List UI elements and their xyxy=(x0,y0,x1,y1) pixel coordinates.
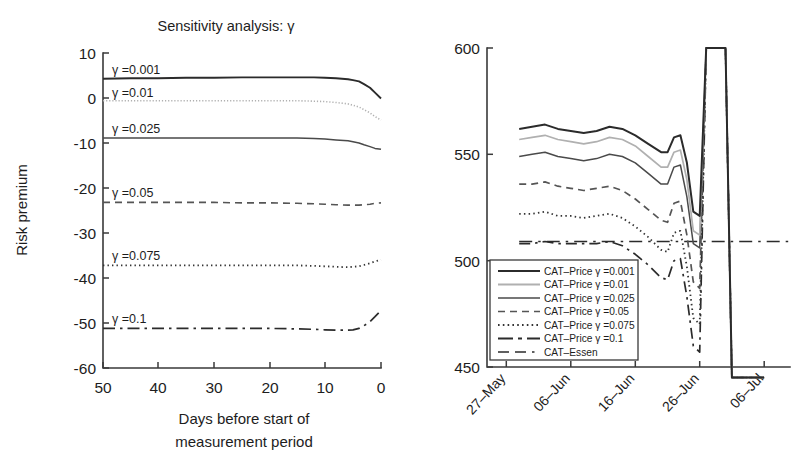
right-ytick-600: 600 xyxy=(454,40,480,57)
left-y-tick-labels: 10 0 -10 -20 -30 -40 -50 -60 xyxy=(74,45,97,377)
left-ytick-2: -10 xyxy=(74,135,97,152)
right-xtick-26-jun: 26–Jun xyxy=(659,370,702,415)
left-xtick-5: 0 xyxy=(377,379,386,396)
left-x-axis-label-line1: Days before start of xyxy=(179,410,311,427)
annot-gamma-0.05: γ =0.05 xyxy=(112,186,153,200)
left-ytick-3: -20 xyxy=(74,180,97,197)
left-xtick-0: 50 xyxy=(94,379,112,396)
right-x-tick-labels: 27–May 06–Jun 16–Jun 26–Jun 06–Jul xyxy=(463,370,767,417)
left-curve-annotations: γ =0.001 γ =0.01 γ =0.025 γ =0.05 γ =0.0… xyxy=(112,63,160,326)
left-ytick-6: -50 xyxy=(74,315,97,332)
left-x-ticks xyxy=(103,362,381,368)
figure-root: Sensitivity analysis: γ Risk premium 10 … xyxy=(0,0,812,470)
left-curve-gamma-0.05 xyxy=(103,202,381,205)
right-xtick-27-may: 27–May xyxy=(463,370,509,417)
left-curves xyxy=(103,77,381,330)
legend-label-gamma-0.1: CAT–Price γ =0.1 xyxy=(544,333,624,344)
right-ytick-550: 550 xyxy=(454,146,480,163)
legend-label-cat-essen: CAT–Essen xyxy=(544,347,598,358)
right-plot-panel: 600 550 500 450 27–May 06–Jun 16–Jun 26–… xyxy=(406,0,812,470)
left-ytick-7: -60 xyxy=(74,360,97,377)
left-y-axis-label: Risk premium xyxy=(13,164,30,256)
left-curve-gamma-0.025 xyxy=(103,138,381,149)
left-ytick-0: 10 xyxy=(79,45,97,62)
left-xtick-2: 30 xyxy=(205,379,223,396)
left-curve-gamma-0.01 xyxy=(103,101,381,120)
annot-gamma-0.01: γ =0.01 xyxy=(112,86,153,100)
left-ytick-1: 0 xyxy=(87,90,96,107)
annot-gamma-0.025: γ =0.025 xyxy=(112,122,160,136)
left-xtick-3: 20 xyxy=(261,379,279,396)
right-xtick-16-jun: 16–Jun xyxy=(594,370,637,415)
legend-label-gamma-0.01: CAT–Price γ =0.01 xyxy=(544,279,629,290)
legend-label-gamma-0.001: CAT–Price γ =0.001 xyxy=(544,266,635,277)
left-x-tick-labels: 50 40 30 20 10 0 xyxy=(94,379,385,396)
annot-gamma-0.075: γ =0.075 xyxy=(112,249,160,263)
left-ytick-4: -30 xyxy=(74,225,97,242)
left-xtick-1: 40 xyxy=(149,379,167,396)
right-xtick-06-jun: 06–Jun xyxy=(530,370,573,415)
left-xtick-4: 10 xyxy=(316,379,334,396)
left-plot-panel: Sensitivity analysis: γ Risk premium 10 … xyxy=(0,0,406,470)
annot-gamma-0.1: γ =0.1 xyxy=(112,312,146,326)
right-x-ticks xyxy=(506,361,764,367)
right-ytick-450: 450 xyxy=(454,359,480,376)
right-y-tick-labels: 600 550 500 450 xyxy=(454,40,480,376)
legend-label-gamma-0.025: CAT–Price γ =0.025 xyxy=(544,293,635,304)
right-plot-legend: CAT–Price γ =0.001 CAT–Price γ =0.01 CAT… xyxy=(490,260,638,360)
left-x-axis-label-line2: measurement period xyxy=(175,433,313,450)
right-plot-svg: 600 550 500 450 27–May 06–Jun 16–Jun 26–… xyxy=(406,0,812,470)
right-ytick-500: 500 xyxy=(454,253,480,270)
legend-label-gamma-0.075: CAT–Price γ =0.075 xyxy=(544,320,635,331)
left-ytick-5: -40 xyxy=(74,270,97,287)
left-plot-title: Sensitivity analysis: γ xyxy=(158,18,296,34)
legend-label-gamma-0.05: CAT–Price γ =0.05 xyxy=(544,306,629,317)
annot-gamma-0.001: γ =0.001 xyxy=(112,63,160,77)
left-plot-svg: Sensitivity analysis: γ Risk premium 10 … xyxy=(0,0,406,470)
